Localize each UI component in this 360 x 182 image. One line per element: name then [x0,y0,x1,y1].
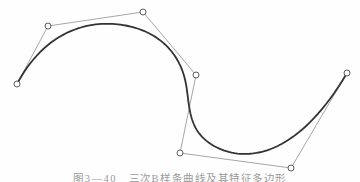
control-point-5 [288,165,294,171]
bspline-figure: 图3—40 三次B样条曲线及其特征多边形 [0,0,360,182]
control-polygon [17,12,347,168]
control-point-6 [344,70,350,76]
figure-caption: 图3—40 三次B样条曲线及其特征多边形 [0,174,360,182]
control-point-1 [45,23,51,29]
control-point-0 [14,81,20,87]
control-point-4 [177,150,183,156]
bspline-curve [17,24,347,154]
control-point-2 [140,9,146,15]
control-point-3 [193,72,199,78]
bspline-canvas [0,0,360,182]
